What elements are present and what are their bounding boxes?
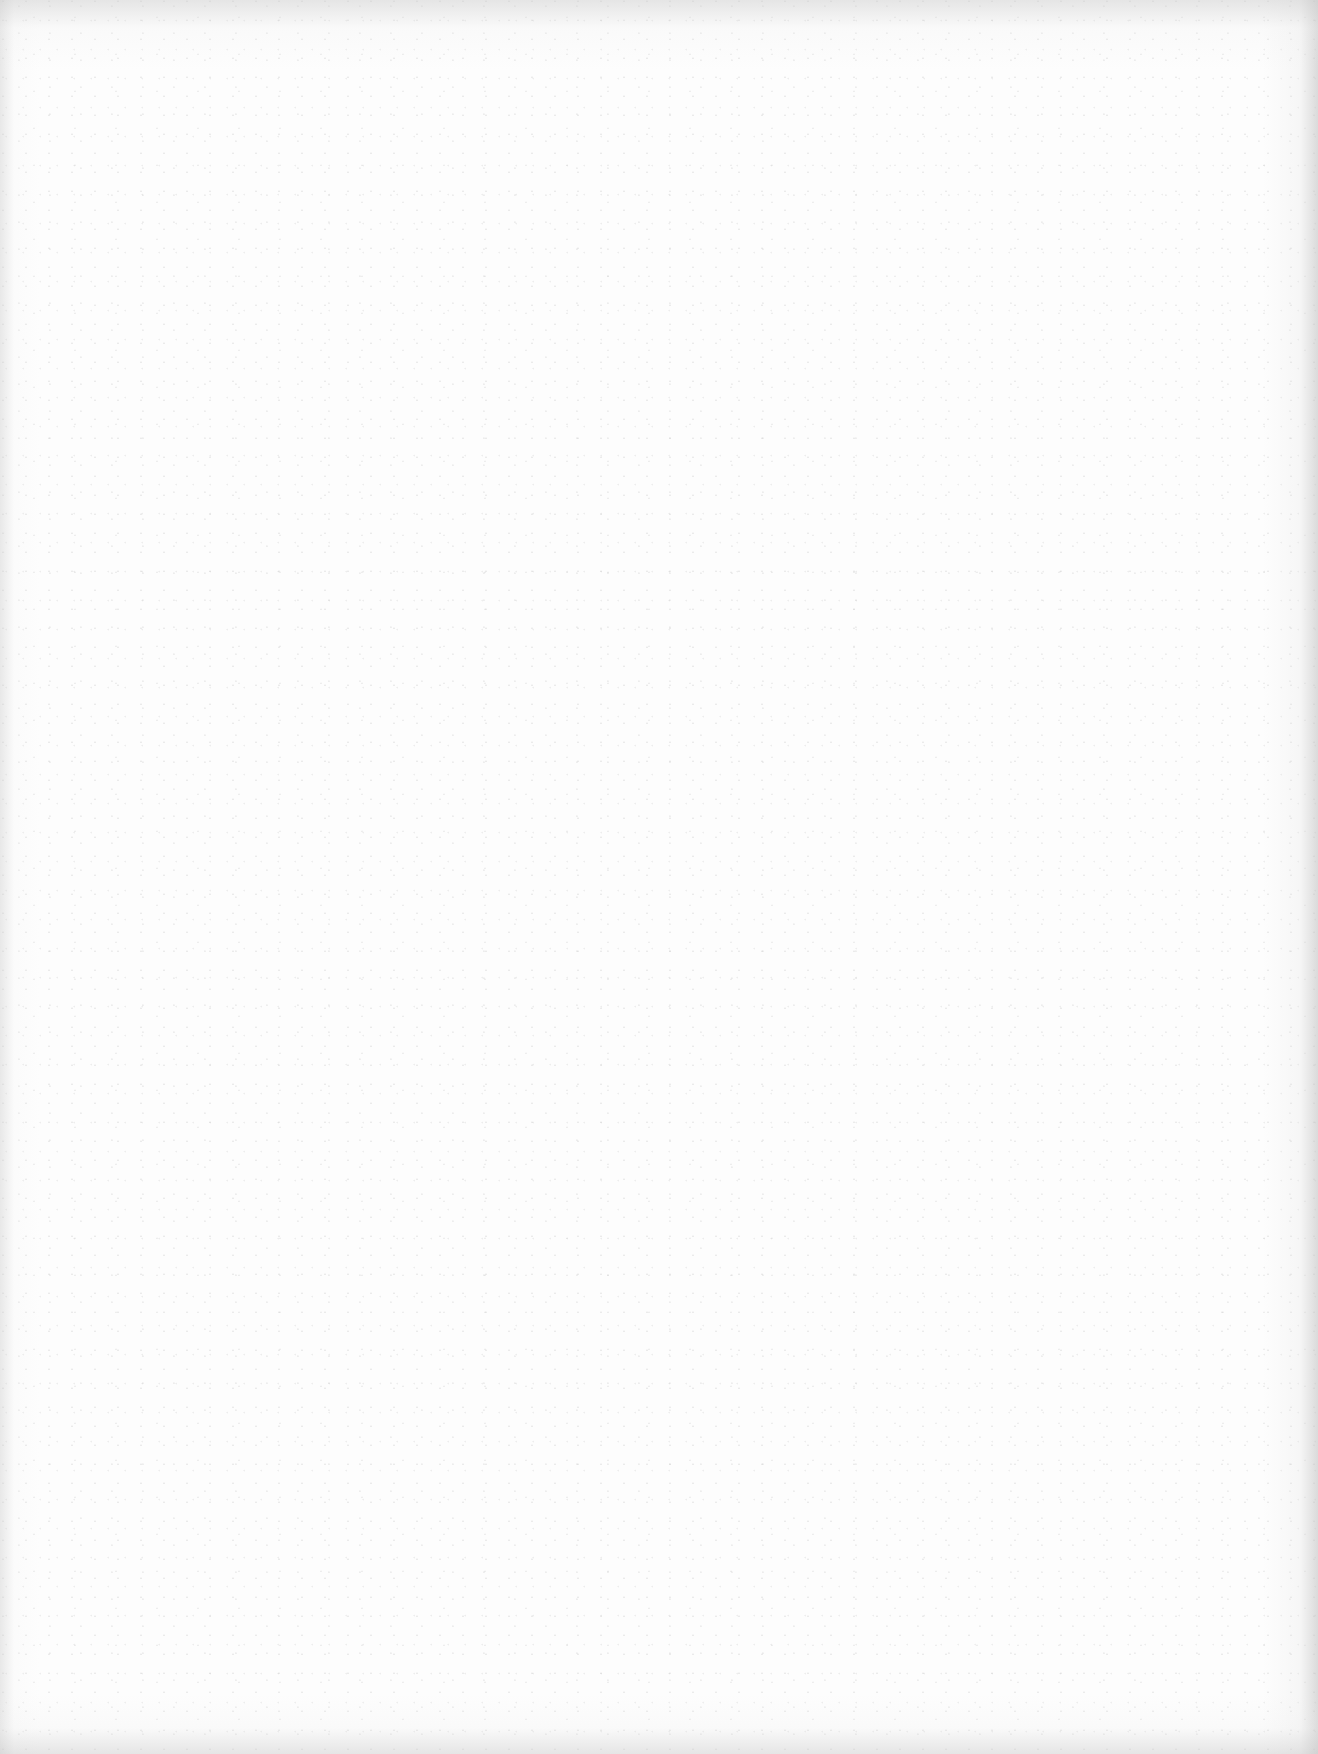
- page-content-area: [0, 0, 1318, 1754]
- blank-document-page: [0, 0, 1318, 1754]
